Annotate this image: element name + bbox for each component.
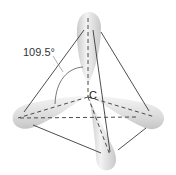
diagram-canvas: 109.5° C	[0, 0, 176, 175]
orbital-lobe-bottom	[90, 100, 116, 170]
orbital-lobe-top	[77, 12, 101, 84]
carbon-atom-label: C	[89, 89, 97, 101]
tetrahedral-carbon-diagram: 109.5° C	[0, 0, 176, 175]
edge-left-bottom	[33, 125, 101, 153]
bond-angle-label: 109.5°	[23, 46, 55, 58]
edge-right-bottom	[118, 128, 146, 150]
orbital-lobe-left	[13, 96, 86, 129]
